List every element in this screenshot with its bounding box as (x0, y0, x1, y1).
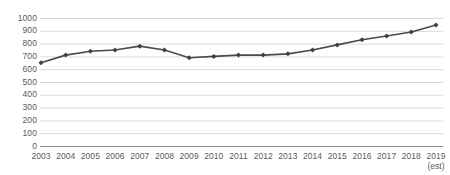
x-axis-tick-sublabel: (est) (422, 161, 450, 171)
x-axis-tick-label: 2019(est) (422, 151, 450, 171)
